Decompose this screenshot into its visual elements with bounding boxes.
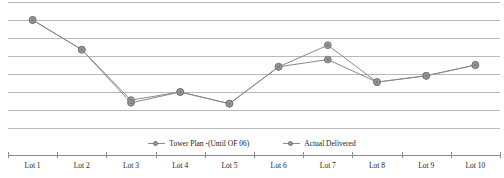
axis-tick-label: Lot 6 bbox=[254, 160, 303, 171]
plot-area bbox=[0, 0, 504, 134]
axis-tick bbox=[8, 152, 9, 158]
axis-tick bbox=[106, 152, 107, 158]
chart-legend: Tower Plan -(Until OF 06) Actual Deliver… bbox=[0, 134, 504, 152]
data-point-center bbox=[179, 91, 182, 94]
axis-tick-label: Lot 4 bbox=[156, 160, 205, 171]
axis-tick-label: Lot 8 bbox=[352, 160, 401, 171]
data-point-center bbox=[130, 99, 133, 102]
axis-tick-label: Lot 7 bbox=[303, 160, 352, 171]
legend-item-actual-delivered[interactable]: Actual Delivered bbox=[283, 139, 355, 148]
axis-tick bbox=[402, 152, 403, 158]
series-line bbox=[33, 20, 476, 104]
axis-tick-label: Lot 2 bbox=[57, 160, 106, 171]
axis-tick-label: Lot 9 bbox=[402, 160, 451, 171]
axis-tick bbox=[156, 152, 157, 158]
legend-item-label: Tower Plan -(Until OF 06) bbox=[169, 139, 249, 148]
data-point-center bbox=[228, 102, 231, 105]
axis-tick bbox=[254, 152, 255, 158]
axis-tick bbox=[303, 152, 304, 158]
legend-marker-icon bbox=[283, 140, 300, 147]
axis-tick bbox=[205, 152, 206, 158]
data-point-center bbox=[326, 58, 329, 61]
axis-tick bbox=[352, 152, 353, 158]
axis-tick-label: Lot 10 bbox=[451, 160, 500, 171]
x-axis: Lot 1Lot 2Lot 3Lot 4Lot 5Lot 6Lot 7Lot 8… bbox=[0, 152, 504, 178]
axis-tick-label: Lot 5 bbox=[205, 160, 254, 171]
axis-tick bbox=[451, 152, 452, 158]
line-chart: Tower Plan -(Until OF 06) Actual Deliver… bbox=[0, 0, 504, 178]
axis-tick-label: Lot 1 bbox=[8, 160, 57, 171]
data-point-center bbox=[80, 48, 83, 51]
data-point-center bbox=[326, 44, 329, 47]
data-point-center bbox=[425, 74, 428, 77]
data-point-center bbox=[277, 65, 280, 68]
legend-item-tower-plan[interactable]: Tower Plan -(Until OF 06) bbox=[148, 139, 249, 148]
axis-tick bbox=[500, 152, 501, 158]
data-point-center bbox=[31, 19, 34, 22]
series-line bbox=[33, 20, 476, 104]
series-layer bbox=[0, 0, 504, 134]
axis-tick-label: Lot 3 bbox=[106, 160, 155, 171]
axis-tick bbox=[57, 152, 58, 158]
data-point-center bbox=[376, 81, 379, 84]
legend-marker-icon bbox=[148, 140, 165, 147]
data-point-center bbox=[474, 64, 477, 67]
legend-item-label: Actual Delivered bbox=[304, 139, 355, 148]
axis-tick-labels: Lot 1Lot 2Lot 3Lot 4Lot 5Lot 6Lot 7Lot 8… bbox=[8, 160, 500, 171]
